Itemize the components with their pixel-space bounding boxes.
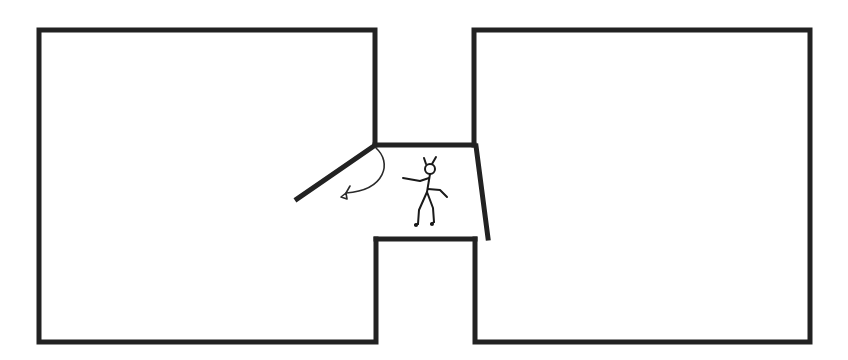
floor-plan	[0, 0, 848, 360]
angled-door-panel	[476, 146, 488, 238]
swinging-door	[297, 146, 374, 199]
right-room	[474, 30, 810, 342]
left-room	[39, 30, 376, 342]
stick-figure-icon	[403, 157, 447, 227]
